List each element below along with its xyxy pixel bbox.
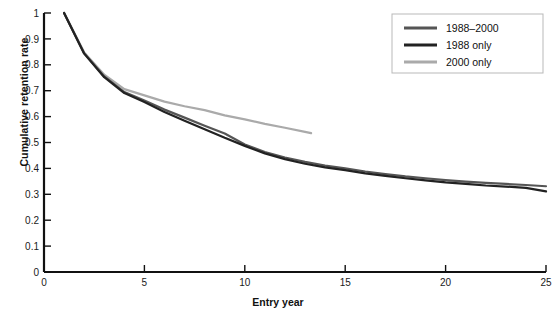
legend-label-3: 2000 only bbox=[446, 56, 492, 68]
x-axis-ticks: 0510152025 bbox=[41, 265, 552, 288]
x-tick-label: 25 bbox=[540, 277, 552, 288]
x-tick-label: 0 bbox=[41, 277, 47, 288]
legend-label-1: 1988–2000 bbox=[446, 22, 499, 34]
y-axis-ticks: 00.10.20.30.40.50.60.70.80.91 bbox=[25, 8, 51, 278]
legend-label-2: 1988 only bbox=[446, 39, 492, 51]
retention-chart: Cumulative retention rate Entry year 00.… bbox=[0, 0, 556, 319]
y-tick-label: 0.1 bbox=[25, 241, 39, 252]
y-tick-label: 0.6 bbox=[25, 111, 39, 122]
y-tick-label: 0 bbox=[33, 267, 39, 278]
y-tick-label: 0.2 bbox=[25, 215, 39, 226]
y-tick-label: 0.3 bbox=[25, 189, 39, 200]
y-tick-label: 0.8 bbox=[25, 59, 39, 70]
y-tick-label: 1 bbox=[33, 8, 39, 19]
x-tick-label: 5 bbox=[142, 277, 148, 288]
y-tick-label: 0.7 bbox=[25, 85, 39, 96]
y-tick-label: 0.9 bbox=[25, 34, 39, 45]
chart-legend: 1988–20001988 only2000 only bbox=[392, 14, 543, 73]
x-tick-label: 10 bbox=[239, 277, 251, 288]
y-tick-label: 0.5 bbox=[25, 137, 39, 148]
y-tick-label: 0.4 bbox=[25, 163, 39, 174]
plot-area: 00.10.20.30.40.50.60.70.80.91 0510152025… bbox=[0, 0, 556, 319]
x-tick-label: 20 bbox=[440, 277, 452, 288]
x-tick-label: 15 bbox=[340, 277, 352, 288]
